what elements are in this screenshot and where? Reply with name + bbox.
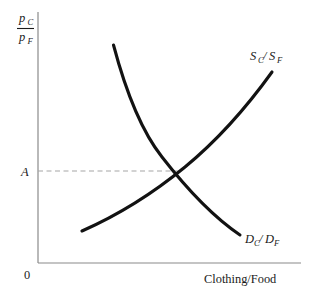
y-axis-numerator: p [18, 11, 25, 25]
demand-label-subscript-2: F [273, 238, 280, 248]
supply-label-base-1: S [250, 49, 257, 63]
y-axis-denominator-subscript: F [27, 36, 34, 46]
supply-label-separator: / [262, 49, 268, 63]
relative-demand-curve [114, 45, 241, 235]
y-axis-denominator: p [18, 30, 25, 44]
y-axis-label: p C p F [17, 11, 34, 46]
relative-supply-label: S C / S F [250, 49, 283, 65]
supply-label-base-2: S [269, 49, 276, 63]
relative-supply-curve [82, 72, 272, 231]
origin-label: 0 [24, 268, 30, 282]
supply-label-subscript-2: F [276, 55, 283, 65]
y-axis-numerator-subscript: C [28, 17, 34, 27]
relative-supply-demand-chart: p C p F A 0 S C / S F D C / D F Clothing… [0, 0, 314, 303]
relative-demand-label: D C / D F [244, 232, 280, 248]
demand-label-base-1: D [244, 232, 254, 246]
x-axis-label: Clothing/Food [204, 272, 277, 286]
equilibrium-label: A [20, 165, 29, 179]
demand-label-base-2: D [264, 232, 274, 246]
demand-label-separator: / [258, 232, 264, 246]
